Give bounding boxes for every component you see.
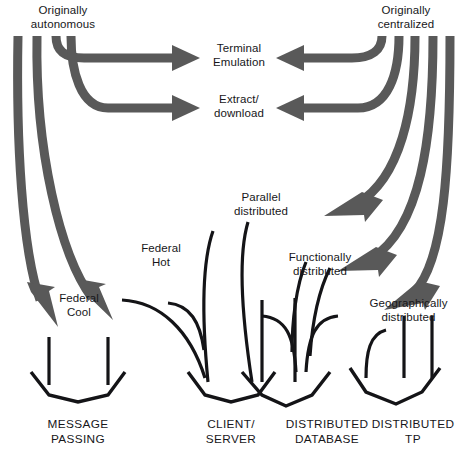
label-parallel-distributed: Parallel distributed <box>218 190 304 219</box>
label-originally-autonomous: Originally autonomous <box>10 3 116 32</box>
label-extract-download: Extract/ download <box>196 92 282 121</box>
label-federal-cool: Federal Cool <box>43 291 115 320</box>
arrow-to-distributed-tp <box>350 316 440 404</box>
label-client-server: CLIENT/ SERVER <box>190 417 272 446</box>
arrow-centralized-to-terminal-emulation <box>276 36 382 71</box>
diagram-canvas: .gray { fill:none; stroke:#595959; strok… <box>0 0 459 463</box>
label-originally-centralized: Originally centralized <box>353 3 459 32</box>
arrow-centralized-to-functionally-distributed <box>338 36 433 277</box>
label-terminal-emulation: Terminal Emulation <box>196 41 282 70</box>
label-distributed-tp: DISTRIBUTED TP <box>367 417 459 446</box>
label-federal-hot: Federal Hot <box>126 241 196 270</box>
label-message-passing: MESSAGE PASSING <box>28 417 128 446</box>
label-distributed-database: DISTRIBUTED DATABASE <box>272 417 382 446</box>
arrow-centralized-to-parallel-distributed <box>324 36 415 222</box>
arrow-autonomous-to-extract-download <box>71 36 200 121</box>
arrow-to-message-passing <box>31 337 125 402</box>
label-functionally-distributed: Functionally distributed <box>272 250 368 279</box>
label-geographically-distributed: Geographically distributed <box>358 296 459 325</box>
